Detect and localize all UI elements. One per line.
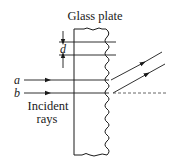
- diffraction-grating-diagram: Glass plate d a b Incident rays: [0, 0, 178, 165]
- diffracted-rays: [111, 52, 165, 93]
- glass-plate: [74, 28, 109, 156]
- ray-b-label: b: [14, 86, 20, 100]
- incident-rays: [24, 80, 109, 93]
- rays-label: rays: [37, 112, 58, 126]
- grating-wavy-edge: [105, 29, 109, 155]
- ray-a-label: a: [14, 73, 20, 87]
- glass-plate-label: Glass plate: [67, 9, 123, 23]
- spacing-d-label: d: [60, 42, 67, 56]
- incident-label: Incident: [28, 99, 69, 113]
